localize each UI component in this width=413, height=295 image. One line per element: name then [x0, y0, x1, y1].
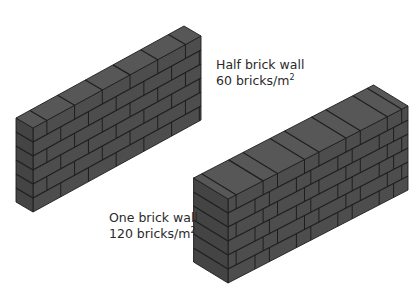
half-brick-wall-name: Half brick wall: [216, 57, 304, 73]
one-brick-wall-label: One brick wall 120 bricks/m2: [109, 210, 198, 242]
one-brick-wall-drawing: [194, 85, 408, 283]
one-brick-wall-name: One brick wall: [109, 210, 198, 226]
walls-illustration: [0, 0, 413, 295]
one-brick-wall-density: 120 bricks/m2: [109, 226, 198, 242]
half-brick-wall-label: Half brick wall 60 bricks/m2: [216, 57, 304, 89]
half-brick-wall-density: 60 bricks/m2: [216, 73, 304, 89]
half-brick-wall-drawing: [16, 26, 201, 212]
